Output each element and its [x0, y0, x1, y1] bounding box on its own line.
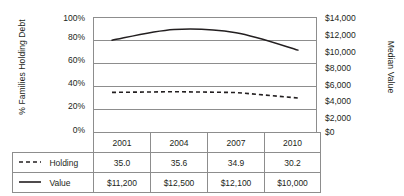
right-tick-14000: $14,000 — [325, 14, 356, 23]
right-axis-ticks: $14,000 $12,000 $10,000 $8,000 $6,000 $4… — [325, 0, 380, 196]
legend-label-value: Value — [49, 178, 70, 188]
table-header-2007: 2007 — [208, 133, 265, 153]
table-corner-cell — [13, 133, 94, 153]
dashed-line-icon — [19, 159, 41, 165]
table-row: 2001 2004 2007 2010 — [13, 133, 321, 153]
series-line-value — [112, 29, 298, 50]
cell-holding-2007: 34.9 — [208, 153, 265, 173]
left-tick-60: 60% — [68, 56, 85, 65]
cell-holding-2004: 35.6 — [151, 153, 208, 173]
cell-value-2010: $10,000 — [265, 173, 321, 193]
right-tick-12000: $12,000 — [325, 31, 356, 40]
table-header-2004: 2004 — [151, 133, 208, 153]
cell-holding-2001: 35.0 — [94, 153, 151, 173]
table-header-2001: 2001 — [94, 133, 151, 153]
left-tick-20: 20% — [68, 102, 85, 111]
cell-value-2004: $12,500 — [151, 173, 208, 193]
legend-label-holding: Holding — [49, 158, 78, 168]
cell-value-2007: $12,100 — [208, 173, 265, 193]
right-tick-2000: $2,000 — [325, 114, 351, 123]
gridlines — [93, 18, 317, 133]
left-tick-40: 40% — [68, 79, 85, 88]
cell-holding-2010: 30.2 — [265, 153, 321, 173]
cell-value-2001: $11,200 — [94, 173, 151, 193]
legend-item-holding: Holding — [13, 153, 94, 173]
table-row: Value $11,200 $12,500 $12,100 $10,000 — [13, 173, 321, 193]
plot-svg — [93, 17, 317, 133]
chart-figure: % Families Holding Debt 100% 80% 60% 40%… — [0, 0, 404, 196]
right-tick-4000: $4,000 — [325, 97, 351, 106]
right-tick-10000: $10,000 — [325, 48, 356, 57]
left-tick-100: 100% — [63, 14, 85, 23]
table-header-2010: 2010 — [265, 133, 321, 153]
left-axis-title: % Families Holding Debt — [17, 7, 27, 127]
right-tick-0: $0 — [325, 128, 334, 137]
table-row: Holding 35.0 35.6 34.9 30.2 — [13, 153, 321, 173]
right-tick-8000: $8,000 — [325, 64, 351, 73]
plot-area — [93, 17, 317, 133]
series-line-holding — [112, 92, 298, 98]
data-table-wrapper: 2001 2004 2007 2010 Holding 35.0 — [12, 132, 320, 193]
plot-frame — [94, 17, 317, 133]
data-table: 2001 2004 2007 2010 Holding 35.0 — [12, 132, 321, 193]
legend-item-value: Value — [13, 173, 94, 193]
solid-line-icon — [19, 179, 41, 185]
right-tick-6000: $6,000 — [325, 81, 351, 90]
left-tick-80: 80% — [68, 33, 85, 42]
right-axis-title: Median Value — [386, 12, 396, 122]
